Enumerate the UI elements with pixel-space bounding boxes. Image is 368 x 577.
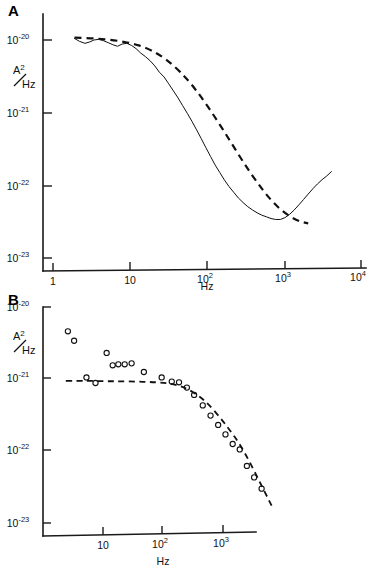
- panel-a-ytick-exp-1: -21: [18, 105, 29, 114]
- panel-a-xtick-0: 1: [50, 275, 56, 287]
- panel-a-x-axis: [43, 268, 366, 271]
- figure-noise-spectra: A 10-20: [0, 0, 368, 577]
- data-point: [65, 329, 70, 334]
- data-point: [176, 380, 181, 385]
- panel-a-ylabel-den: Hz: [22, 78, 35, 90]
- panel-a-xtick-1: 10: [124, 274, 136, 286]
- data-point: [122, 362, 127, 367]
- panel-a-ytick-base-1: 10: [7, 107, 19, 119]
- data-point: [244, 463, 249, 468]
- svg-text:10-20: 10-20: [7, 299, 30, 313]
- panel-b-xtick-2-exp: 3: [225, 535, 229, 544]
- panel-a-x-axis-title: Hz: [201, 280, 214, 290]
- panel-b-ytick-exp-0: -20: [18, 299, 29, 308]
- svg-text:10-20: 10-20: [7, 32, 30, 46]
- svg-text:A2: A2: [13, 63, 25, 76]
- panel-b-ytick-exp-1: -21: [18, 370, 29, 379]
- panel-a-y-axis-title: A2 Hz: [13, 63, 35, 90]
- data-point: [84, 375, 89, 380]
- data-point: [159, 375, 164, 380]
- svg-text:102: 102: [152, 536, 168, 550]
- svg-text:10-22: 10-22: [7, 178, 30, 192]
- svg-text:104: 104: [350, 269, 366, 283]
- data-point: [129, 361, 134, 366]
- panel-a-xtick-4-exp: 4: [362, 269, 366, 278]
- panel-a-xtick-4: 10: [350, 271, 362, 283]
- panel-a-ytick-exp-3: -23: [18, 250, 29, 259]
- panel-b-x-tick-labels: 10 102 103: [97, 535, 229, 551]
- data-point: [252, 475, 257, 480]
- panel-a-xtick-3: 10: [275, 272, 287, 284]
- data-point: [104, 350, 109, 355]
- panel-b-y-ticks: [43, 307, 51, 523]
- panel-b-ytick-base-0: 10: [7, 301, 19, 313]
- data-point: [216, 422, 221, 427]
- svg-text:10-21: 10-21: [7, 105, 30, 119]
- panel-a-y-ticks: [43, 40, 52, 258]
- panel-b-x-axis-title: Hz: [157, 555, 170, 567]
- panel-b-ylabel-sup: 2: [20, 329, 25, 338]
- panel-b: B 10-20: [0, 290, 368, 577]
- data-point: [200, 403, 205, 408]
- svg-text:A2: A2: [13, 329, 25, 342]
- panel-a-plot: 10-20 10-21 10-22 10-23 A2 Hz: [0, 0, 368, 290]
- panel-a-ytick-base-2: 10: [7, 180, 19, 192]
- panel-a: A 10-20: [0, 0, 368, 290]
- svg-text:10-23: 10-23: [7, 515, 30, 529]
- panel-a-ytick-exp-2: -22: [18, 178, 29, 187]
- panel-b-ytick-base-2: 10: [7, 444, 19, 456]
- data-point: [72, 338, 77, 343]
- data-point: [93, 380, 98, 385]
- panel-b-plot-main: 10-20 10-21 10-22 10-23 A2 Hz: [0, 290, 368, 577]
- panel-b-ytick-base-1: 10: [7, 372, 19, 384]
- panel-b-xtick-2: 10: [213, 537, 225, 549]
- panel-b-ytick-exp-2: -22: [18, 442, 29, 451]
- panel-a-xtick-2-exp: 2: [209, 271, 213, 280]
- panel-b-ytick-exp-3: -23: [18, 515, 29, 524]
- panel-a-ytick-base-3: 10: [7, 252, 19, 264]
- data-point: [141, 369, 146, 374]
- svg-text:103: 103: [213, 535, 229, 549]
- panel-b-fit-curve: [66, 381, 273, 508]
- data-point: [110, 363, 115, 368]
- panel-b-data-points: [65, 329, 264, 492]
- panel-b-xtick-1-exp: 2: [164, 536, 168, 545]
- data-point: [116, 362, 121, 367]
- svg-text:10-23: 10-23: [7, 250, 30, 264]
- panel-a-ytick-exp-0: -20: [18, 32, 29, 41]
- data-point: [223, 432, 228, 437]
- svg-text:103: 103: [275, 270, 291, 284]
- data-point: [208, 413, 213, 418]
- panel-a-fit-curve: [74, 38, 308, 224]
- panel-b-xtick-0: 10: [97, 539, 109, 551]
- data-point: [230, 441, 235, 446]
- svg-text:10-21: 10-21: [7, 370, 30, 384]
- panel-b-xtick-1: 10: [152, 538, 164, 550]
- panel-b-ylabel-den: Hz: [22, 344, 35, 356]
- panel-a-ylabel-sup: 2: [20, 63, 25, 72]
- svg-text:10-22: 10-22: [7, 442, 30, 456]
- panel-a-measured-trace: [74, 38, 331, 219]
- panel-b-ytick-base-3: 10: [7, 517, 19, 529]
- panel-a-xtick-3-exp: 3: [287, 270, 291, 279]
- panel-a-ytick-base-0: 10: [7, 34, 19, 46]
- data-point: [237, 447, 242, 452]
- panel-b-y-axis-title: A2 Hz: [13, 329, 35, 356]
